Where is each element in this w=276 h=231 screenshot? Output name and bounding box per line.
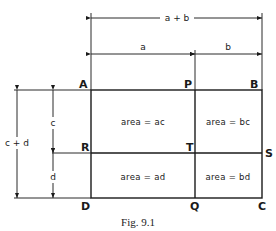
region-ad-label: area = ad bbox=[121, 172, 166, 182]
label-c: c bbox=[51, 118, 56, 128]
point-p: P bbox=[184, 78, 192, 91]
point-a: A bbox=[79, 78, 88, 91]
region-ac-label: area = ac bbox=[121, 117, 165, 127]
point-c: C bbox=[258, 200, 266, 213]
label-d: d bbox=[50, 172, 56, 182]
label-c-plus-d: c + d bbox=[5, 138, 29, 148]
point-s: S bbox=[265, 147, 273, 160]
point-b: B bbox=[250, 78, 258, 91]
point-d: D bbox=[81, 200, 90, 213]
label-b: b bbox=[225, 42, 231, 52]
point-r: R bbox=[81, 141, 90, 154]
rectangle-area-diagram: a + b a b c + d c d A P B R T S D Q C ar… bbox=[0, 0, 276, 231]
point-t: T bbox=[186, 141, 194, 154]
top-dimensions bbox=[91, 13, 262, 90]
region-bc-label: area = bc bbox=[206, 117, 250, 127]
point-q: Q bbox=[190, 200, 199, 213]
figure-caption: Fig. 9.1 bbox=[121, 216, 155, 228]
label-a: a bbox=[140, 42, 146, 52]
region-bd-label: area = bd bbox=[206, 172, 251, 182]
label-a-plus-b: a + b bbox=[165, 13, 190, 23]
